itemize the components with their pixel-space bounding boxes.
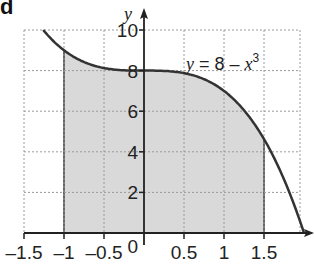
x-tick-label: –0.5 <box>86 242 123 263</box>
equation-var: x <box>244 54 253 74</box>
equation-exp: 3 <box>253 51 260 65</box>
x-tick-label: –1 <box>53 242 74 263</box>
x-tick-label-origin: 0 <box>127 236 138 257</box>
shaded-area <box>64 50 264 233</box>
x-tick-label: 0.5 <box>171 242 197 263</box>
shaded-region <box>64 50 264 233</box>
chart: 246810 –1.5–1–0.500.511.5 y y = 8 – x3 <box>0 0 314 280</box>
equation-mid: = 8 – <box>194 54 245 74</box>
y-tick-label: 2 <box>127 182 138 203</box>
x-tick-label: 1 <box>219 242 230 263</box>
y-tick-label: 6 <box>127 101 138 122</box>
y-tick-label: 8 <box>127 61 138 82</box>
x-tick-label: 1.5 <box>251 242 277 263</box>
x-axis-ticks: –1.5–1–0.500.511.5 <box>6 233 278 263</box>
y-axis-title: y <box>122 4 132 24</box>
y-tick-label: 4 <box>127 142 138 163</box>
equation-label: y = 8 – x3 <box>184 51 260 74</box>
x-tick-label: –1.5 <box>6 242 43 263</box>
